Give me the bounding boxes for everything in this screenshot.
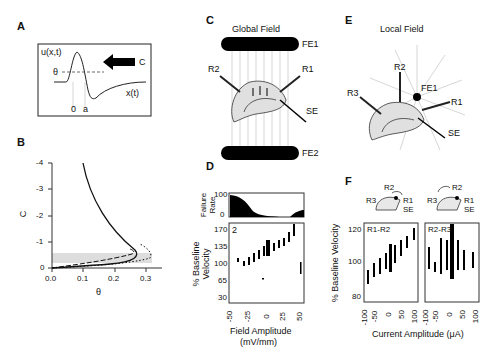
a-xa: a (83, 104, 88, 114)
f-inset-r1-right: R1 (464, 196, 474, 205)
c-fe2: FE2 (302, 148, 319, 158)
a-xlabel: x(t) (126, 88, 139, 98)
d-ytick-1: 135 (214, 242, 227, 251)
f-inset-r3-left: R3 (366, 196, 376, 205)
b-ytick-3: -1 (36, 237, 43, 246)
d-ylabel: % Baseline Velocity (191, 241, 211, 286)
panel-d-scatter-plot (229, 223, 304, 303)
b-ytick-4: 0 (40, 263, 44, 272)
panel-b-plot (48, 163, 162, 272)
d-xtick-2: 0 (262, 314, 271, 318)
b-xtick-0: 0.0 (45, 274, 56, 283)
a-theta: θ (53, 67, 58, 77)
f-right-xtick-4: 100 (471, 310, 480, 323)
f-ytick-1: 100 (348, 257, 361, 266)
f-inset-se-right: SE (464, 205, 475, 214)
f-xlabel: Current Amplitude (μA) (372, 329, 464, 339)
f-inset-r2-right: R2 (452, 183, 462, 192)
f-right-xtick-3: 50 (458, 310, 467, 319)
e-title: Local Field (380, 24, 424, 34)
b-xtick-1: 0.1 (77, 274, 88, 283)
d-ylabel-1: % Baseline (191, 241, 201, 286)
f-inset-se-left: SE (403, 205, 414, 214)
d-inset-label: 2 (232, 225, 237, 235)
f-inset-r2-left: R2 (384, 183, 394, 192)
a-arrow-label: C (139, 57, 146, 67)
d-ytick-0: 170 (214, 225, 227, 234)
f-inset-r3-right: R3 (427, 196, 437, 205)
f-left-inset-label: R1-R2 (367, 225, 390, 234)
b-ylabel: C (18, 211, 28, 218)
f-left-xtick-2: 0 (384, 312, 393, 316)
e-r3: R3 (347, 88, 359, 98)
b-ytick-1: -3 (36, 184, 43, 193)
d-failure-ylabel-1: Failure (199, 193, 208, 217)
d-failure-ytick-0: 100 (214, 190, 227, 199)
d-xlabel-2: (mV/mm) (240, 337, 277, 347)
d-failure-ytick-1: 0 (220, 210, 224, 219)
f-ylabel: % Baseline Velocity (330, 224, 340, 303)
d-xtick-4: 50 (295, 312, 304, 321)
d-ytick-2: 100 (214, 259, 227, 268)
f-left-xtick-0: -100 (360, 309, 369, 325)
d-ytick-4: 30 (218, 293, 227, 302)
e-se: SE (448, 128, 460, 138)
panel-d-failure-plot (229, 193, 304, 217)
d-xtick-3: 25 (278, 312, 287, 321)
a-ylabel: u(x,t) (41, 47, 62, 57)
panel-f-left-plot (364, 223, 418, 302)
b-ytick-2: -2 (36, 211, 43, 220)
f-right-inset-label: R2-R3 (428, 225, 451, 234)
c-r1: R1 (302, 64, 314, 74)
d-ytick-3: 65 (218, 276, 227, 285)
panel-f-right-plot (425, 223, 479, 302)
f-ytick-2: 80 (352, 292, 361, 301)
c-se: SE (306, 106, 318, 116)
c-fe1: FE1 (302, 39, 319, 49)
c-title: Global Field (232, 24, 280, 34)
b-ytick-0: -4 (36, 158, 43, 167)
f-left-xtick-3: 50 (397, 310, 406, 319)
velocity-arrow-icon (103, 54, 135, 70)
f-ytick-0: 120 (348, 225, 361, 234)
b-xlabel: θ (96, 287, 101, 297)
c-r2: R2 (208, 64, 220, 74)
f-inset-r1-left: R1 (403, 196, 413, 205)
f-left-xtick-4: 100 (410, 310, 419, 323)
figure-graphics (0, 0, 496, 360)
d-xtick-0: -50 (225, 311, 234, 323)
d-xtick-1: -25 (243, 311, 252, 323)
fe1-electrode-dot (413, 93, 421, 101)
fe2-electrode (221, 146, 299, 160)
f-right-xtick-1: -50 (431, 311, 440, 323)
b-xtick-2: 0.2 (108, 274, 119, 283)
b-xtick-3: 0.3 (140, 274, 151, 283)
d-xlabel-1: Field Amplitude (230, 326, 292, 336)
f-right-xtick-2: 0 (445, 312, 454, 316)
e-r1: R1 (451, 97, 463, 107)
e-r2: R2 (394, 62, 406, 72)
d-ylabel-2: Velocity (201, 241, 211, 286)
f-left-xtick-1: -50 (370, 311, 379, 323)
f-right-xtick-0: -100 (421, 309, 430, 325)
panel-c-diagram (220, 37, 306, 160)
e-fe1: FE1 (421, 83, 438, 93)
fe1-electrode (221, 37, 299, 51)
a-x0: 0 (71, 104, 76, 114)
